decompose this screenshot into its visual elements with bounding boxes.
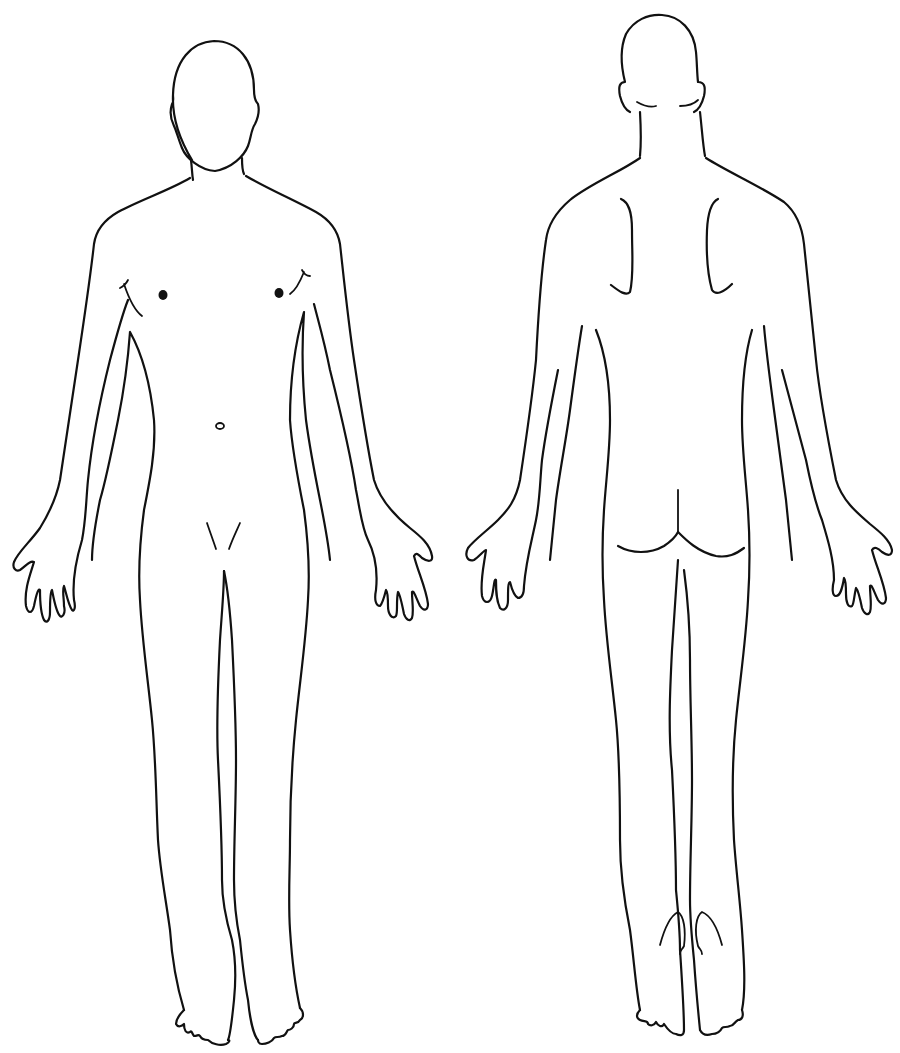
back-right-shoulder-blade [707, 199, 732, 293]
back-hairline-left [637, 102, 656, 107]
body-diagram-svg [0, 0, 900, 1053]
front-right-shoulder-arm-outer [246, 176, 432, 620]
back-view-figure [466, 15, 892, 1035]
back-right-heel [696, 912, 722, 954]
back-neck-left [640, 112, 641, 156]
back-left-foot [637, 1010, 684, 1035]
back-left-shoulder-blade [611, 199, 633, 294]
front-groin-left [207, 523, 216, 549]
front-left-foot [176, 1010, 229, 1045]
front-head-outline [171, 41, 259, 171]
front-right-nipple [275, 288, 284, 298]
back-right-foot [700, 1010, 743, 1035]
back-right-inner-leg [684, 570, 700, 1030]
front-left-shoulder-arm-outer [13, 178, 190, 622]
body-diagram: Front view (anterior) Back view (posteri… [0, 0, 900, 1053]
back-left-buttock [618, 532, 678, 552]
front-right-foot [258, 1008, 303, 1044]
front-right-inner-leg [224, 571, 258, 1040]
front-neck-left [191, 160, 193, 180]
front-groin-right [229, 523, 240, 549]
back-neck-right [700, 112, 705, 156]
back-head-outline [619, 15, 705, 112]
front-navel [216, 423, 224, 429]
back-right-buttock [678, 532, 744, 557]
back-left-shoulder-arm-outer [466, 158, 640, 610]
front-neck-right [242, 158, 244, 174]
front-left-torso-side [92, 332, 184, 1010]
front-right-torso-side [289, 312, 330, 1008]
back-left-torso-side [550, 326, 640, 1010]
back-right-torso-side [733, 326, 792, 1010]
back-hairline-right [680, 100, 698, 106]
front-right-pectoral-line [290, 270, 310, 294]
back-right-shoulder-arm-outer [706, 158, 892, 614]
front-left-nipple [159, 290, 168, 300]
front-view-figure [13, 41, 432, 1045]
back-left-inner-leg [670, 560, 684, 1030]
